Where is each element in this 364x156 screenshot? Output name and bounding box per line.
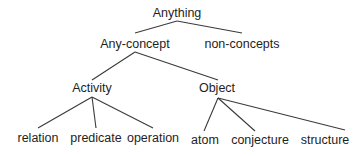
node-structure: structure xyxy=(301,134,350,147)
node-operation: operation xyxy=(127,132,179,145)
edge-activity-predicate xyxy=(92,97,96,128)
node-relation: relation xyxy=(18,132,59,145)
node-any-concept: Any-concept xyxy=(100,38,169,51)
node-atom: atom xyxy=(191,134,219,147)
edge-object-structure xyxy=(218,98,345,130)
node-predicate: predicate xyxy=(70,132,121,145)
edge-any-concept-object xyxy=(135,52,218,80)
edge-any-concept-activity xyxy=(92,52,135,80)
concept-tree-diagram: Anything Any-concept non-concepts Activi… xyxy=(0,0,364,156)
node-object: Object xyxy=(199,82,235,95)
edge-activity-operation xyxy=(92,97,153,128)
edge-object-atom xyxy=(204,98,218,131)
node-conjecture: conjecture xyxy=(231,134,289,147)
node-non-concepts: non-concepts xyxy=(204,38,279,51)
edge-activity-relation xyxy=(38,97,92,128)
node-activity: Activity xyxy=(72,82,112,95)
edge-anything-any-concept xyxy=(135,21,177,33)
node-anything: Anything xyxy=(153,7,202,20)
edge-anything-non-concepts xyxy=(177,21,242,33)
